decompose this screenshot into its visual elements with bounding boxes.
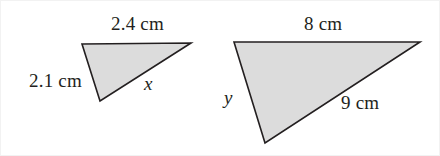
large-triangle [234,42,420,143]
large-triangle-left-label-y: y [224,88,233,107]
small-triangle [82,43,191,101]
small-triangle-left-label: 2.1 cm [29,71,82,90]
large-triangle-top-label: 8 cm [304,14,342,33]
small-triangle-top-label: 2.4 cm [111,14,164,33]
small-triangle-hypotenuse-label-x: x [144,74,153,93]
large-triangle-hypotenuse-label: 9 cm [341,93,379,112]
geometry-figure: 2.4 cm 2.1 cm x 8 cm y 9 cm [0,0,440,156]
